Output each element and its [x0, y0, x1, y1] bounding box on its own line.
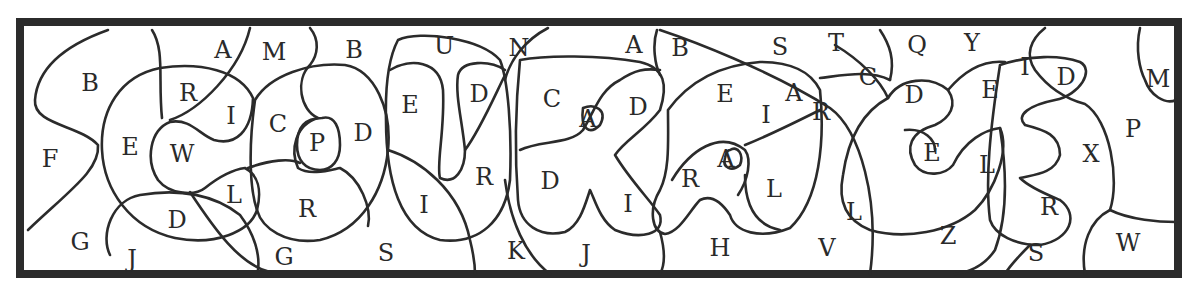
region-letter: B [345, 36, 363, 64]
region-outlines [28, 28, 1176, 274]
puzzle-svg: AMBBRICEWPDFLDRGJGSUNEDRIKABCADDIJSEAIRA… [0, 0, 1189, 287]
region-letter: D [1056, 63, 1075, 91]
region-letter: L [846, 198, 862, 226]
region-letter: I [419, 191, 428, 219]
region-letter: R [298, 195, 317, 223]
region-letter: S [378, 239, 394, 267]
region-letter: E [121, 133, 139, 161]
region-letter: I [623, 190, 632, 218]
region-letter: B [81, 69, 99, 97]
region-letter: F [42, 145, 59, 173]
puzzle-canvas: AMBBRICEWPDFLDRGJGSUNEDRIKABCADDIJSEAIRA… [0, 0, 1189, 287]
region-letter: A [578, 105, 597, 133]
region-letter: W [1116, 229, 1141, 257]
region-letter: R [179, 79, 198, 107]
region-letter: J [578, 240, 591, 268]
region-letter: A [213, 36, 232, 64]
region-letter: I [1020, 53, 1029, 81]
region-letter: R [681, 165, 700, 193]
region-letter: E [981, 76, 999, 104]
region-letter: D [904, 81, 923, 109]
region-letter: E [923, 139, 941, 167]
region-letter: I [226, 102, 235, 130]
region-letter: A [716, 145, 735, 173]
region-letter: W [170, 140, 195, 168]
region-letter: M [262, 38, 287, 66]
region-letter: A [784, 79, 803, 107]
region-letter: S [1028, 239, 1044, 267]
region-letter: P [309, 129, 325, 157]
region-letter: G [274, 243, 293, 271]
region-letter: M [1146, 65, 1171, 93]
region-letter: U [434, 32, 454, 60]
region-letter: P [1125, 115, 1141, 143]
region-letter: R [475, 163, 494, 191]
region-letter: D [167, 206, 186, 234]
region-letter: K [507, 237, 526, 265]
region-letter: I [761, 101, 770, 129]
region-letter: L [979, 151, 995, 179]
region-letter: G [70, 228, 89, 256]
region-letter: D [469, 80, 488, 108]
region-letter: N [509, 34, 530, 62]
region-letter: D [540, 167, 559, 195]
region-letter: E [401, 91, 419, 119]
region-letter: T [828, 29, 844, 57]
region-letter: R [812, 98, 831, 126]
region-letter: L [226, 181, 242, 209]
region-letter: E [716, 80, 734, 108]
region-letter: Z [940, 222, 957, 250]
region-letter: S [772, 33, 788, 61]
region-letter: Q [907, 31, 927, 59]
region-letter: D [628, 93, 647, 121]
region-letter: A [624, 31, 643, 59]
region-letter: V [817, 234, 836, 262]
region-letter: R [1040, 193, 1059, 221]
region-letter: Y [963, 29, 981, 57]
region-letter: J [124, 245, 137, 273]
region-letter: D [353, 119, 372, 147]
region-letter: X [1082, 140, 1099, 168]
region-letter: C [859, 63, 877, 91]
region-letter: B [671, 34, 689, 62]
region-letter: C [543, 85, 561, 113]
region-letter: L [766, 175, 782, 203]
region-letter: H [710, 234, 731, 262]
region-letter: C [269, 110, 287, 138]
